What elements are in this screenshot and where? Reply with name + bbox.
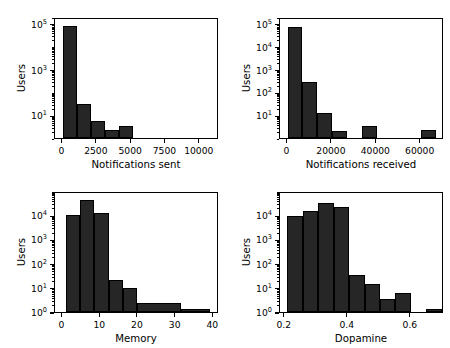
subplot-bottom-right: 1001011021031040.20.40.6DopamineUsers — [0, 0, 450, 348]
y-minor-tick-mark — [277, 288, 279, 289]
y-minor-tick-mark — [277, 266, 279, 267]
y-minor-tick-mark — [277, 253, 279, 254]
y-minor-tick-mark — [277, 271, 279, 272]
histogram-bar — [303, 211, 318, 312]
plot-area-bottom-right — [279, 192, 443, 313]
y-tick-label: 102 — [0, 260, 272, 269]
y-minor-tick-mark — [277, 201, 279, 202]
y-minor-tick-mark — [277, 217, 279, 218]
x-tick-mark — [283, 313, 284, 317]
y-minor-tick-mark — [277, 277, 279, 278]
y-tick-label: 104 — [0, 212, 272, 221]
x-tick-mark — [346, 313, 347, 317]
x-tick-label: 0.4 — [339, 320, 354, 329]
y-minor-tick-mark — [277, 240, 279, 241]
x-tick-label: 0.2 — [276, 320, 291, 329]
histogram-bar — [365, 284, 380, 312]
y-minor-tick-mark — [277, 192, 279, 193]
x-tick-label: 0.6 — [403, 320, 418, 329]
y-minor-tick-mark — [277, 298, 279, 299]
histogram-bar — [287, 216, 302, 312]
y-minor-tick-mark — [277, 292, 279, 293]
y-minor-tick-mark — [277, 265, 279, 266]
y-tick-label: 100 — [0, 308, 272, 317]
y-minor-tick-mark — [277, 242, 279, 243]
y-minor-tick-mark — [277, 228, 279, 229]
y-minor-tick-mark — [277, 247, 279, 248]
histogram-bar — [318, 203, 333, 312]
x-axis-label: Dopamine — [279, 334, 443, 344]
y-minor-tick-mark — [277, 219, 279, 220]
y-minor-tick-mark — [277, 233, 279, 234]
y-minor-tick-mark — [277, 195, 279, 196]
histogram-bar — [334, 207, 349, 312]
y-tick-label: 101 — [0, 284, 272, 293]
y-minor-tick-mark — [277, 223, 279, 224]
y-minor-tick-mark — [277, 245, 279, 246]
y-minor-tick-mark — [277, 281, 279, 282]
bar-series — [280, 193, 442, 312]
y-minor-tick-mark — [277, 193, 279, 194]
x-tick-mark — [409, 313, 410, 317]
y-minor-tick-mark — [277, 241, 279, 242]
histogram-bar — [395, 293, 410, 312]
y-minor-tick-mark — [277, 301, 279, 302]
y-minor-tick-mark — [277, 313, 279, 314]
histogram-bar — [380, 299, 395, 312]
y-axis-label: Users — [242, 222, 252, 282]
y-minor-tick-mark — [277, 268, 279, 269]
y-minor-tick-mark — [277, 216, 279, 217]
y-minor-tick-mark — [277, 204, 279, 205]
y-minor-tick-mark — [277, 208, 279, 209]
y-minor-tick-mark — [277, 291, 279, 292]
histogram-bar — [349, 275, 364, 312]
y-minor-tick-mark — [277, 289, 279, 290]
y-minor-tick-mark — [277, 244, 279, 245]
y-minor-tick-mark — [277, 274, 279, 275]
y-minor-tick-mark — [277, 225, 279, 226]
y-minor-tick-mark — [277, 296, 279, 297]
y-minor-tick-mark — [277, 199, 279, 200]
y-minor-tick-mark — [277, 305, 279, 306]
histogram-bar — [426, 309, 441, 312]
y-minor-tick-mark — [277, 269, 279, 270]
y-minor-tick-mark — [277, 194, 279, 195]
y-tick-label: 103 — [0, 236, 272, 245]
histogram-figure: 101103105025005000750010000Notifications… — [0, 0, 450, 348]
y-minor-tick-mark — [277, 221, 279, 222]
y-minor-tick-mark — [277, 264, 279, 265]
y-minor-tick-mark — [277, 197, 279, 198]
y-minor-tick-mark — [277, 257, 279, 258]
y-minor-tick-mark — [277, 250, 279, 251]
y-minor-tick-mark — [277, 218, 279, 219]
y-minor-tick-mark — [277, 294, 279, 295]
